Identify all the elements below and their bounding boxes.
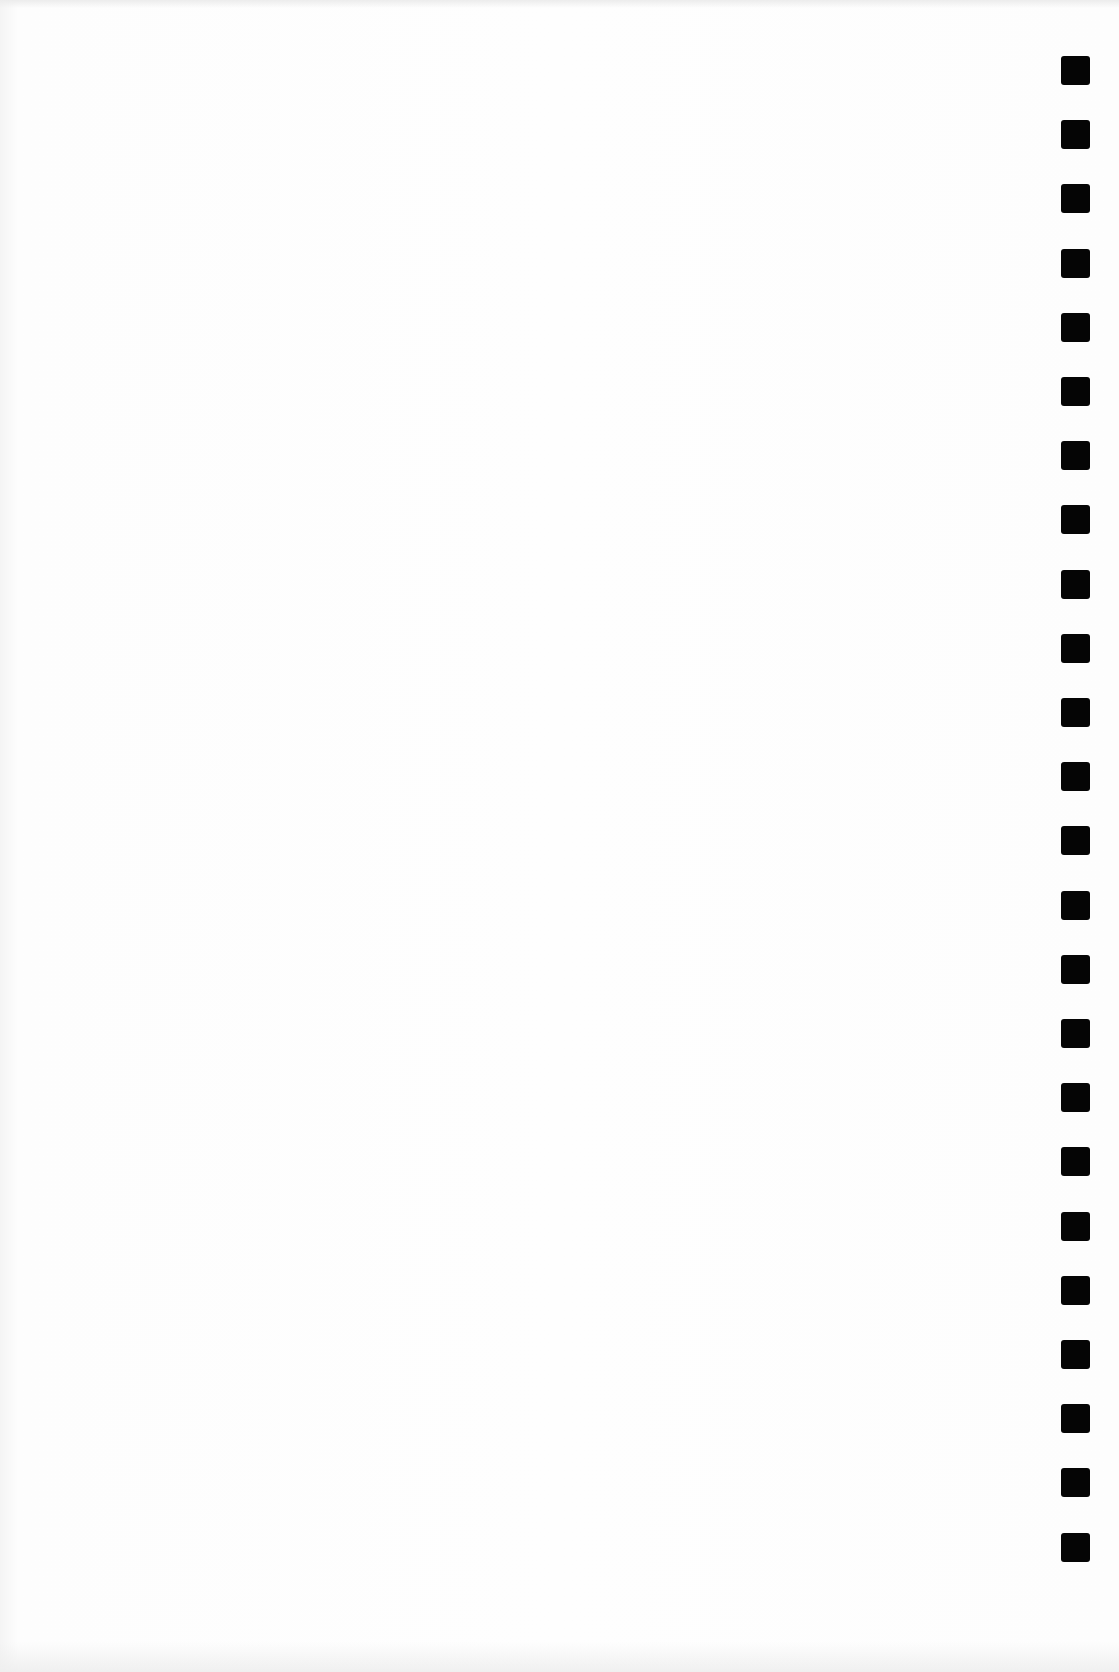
edge-mark-square	[1061, 698, 1090, 727]
edge-mark-square	[1061, 955, 1090, 984]
edge-mark-square	[1061, 570, 1090, 599]
page-top-edge-shadow	[0, 0, 1119, 8]
edge-mark-square	[1061, 826, 1090, 855]
edge-mark-square	[1061, 1533, 1090, 1562]
edge-mark-square	[1061, 1276, 1090, 1305]
edge-mark-square	[1061, 441, 1090, 470]
blank-page	[0, 0, 1119, 1672]
edge-mark-square	[1061, 1404, 1090, 1433]
edge-mark-square	[1061, 1147, 1090, 1176]
edge-mark-square	[1061, 762, 1090, 791]
edge-mark-square	[1061, 1083, 1090, 1112]
edge-mark-square	[1061, 377, 1090, 406]
edge-mark-square	[1061, 249, 1090, 278]
edge-mark-square	[1061, 891, 1090, 920]
edge-mark-square	[1061, 1340, 1090, 1369]
edge-mark-square	[1061, 505, 1090, 534]
edge-mark-square	[1061, 120, 1090, 149]
edge-mark-square	[1061, 56, 1090, 85]
edge-mark-square	[1061, 1212, 1090, 1241]
edge-mark-square	[1061, 1468, 1090, 1497]
edge-mark-square	[1061, 634, 1090, 663]
edge-mark-square	[1061, 313, 1090, 342]
edge-mark-square	[1061, 184, 1090, 213]
edge-mark-square	[1061, 1019, 1090, 1048]
